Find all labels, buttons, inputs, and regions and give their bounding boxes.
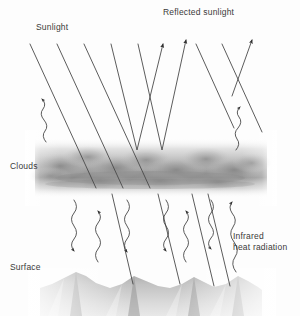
wavy-ir-down-3 <box>164 200 169 251</box>
wavy-ir-up-2 <box>184 211 189 262</box>
ray-incoming-4 <box>196 44 234 128</box>
label-surface: Surface <box>10 262 41 273</box>
ray-incoming-5 <box>222 44 262 132</box>
wavy-ir-below-clouds <box>72 200 238 272</box>
label-infrared-heat-radiation: Infrared heat radiation <box>233 231 287 252</box>
label-reflected-sunlight: Reflected sunlight <box>163 7 234 18</box>
surface-terrain <box>28 268 276 316</box>
label-sunlight: Sunlight <box>36 22 68 33</box>
wavy-ir-down-1 <box>72 200 77 251</box>
wavy-ir-up-1 <box>96 211 101 262</box>
radiation-balance-diagram: Sunlight Reflected sunlight Clouds Surfa… <box>0 0 300 316</box>
diagram-canvas <box>0 0 300 316</box>
label-clouds: Clouds <box>10 161 38 172</box>
cloud-band <box>25 130 277 206</box>
wavy-ir-down-2 <box>125 200 130 252</box>
